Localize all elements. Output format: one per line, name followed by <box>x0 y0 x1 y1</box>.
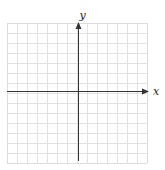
grid <box>7 23 148 164</box>
y-axis-label: y <box>79 9 87 22</box>
x-axis-label: x <box>153 85 160 98</box>
coordinate-plane: x y <box>0 0 165 170</box>
